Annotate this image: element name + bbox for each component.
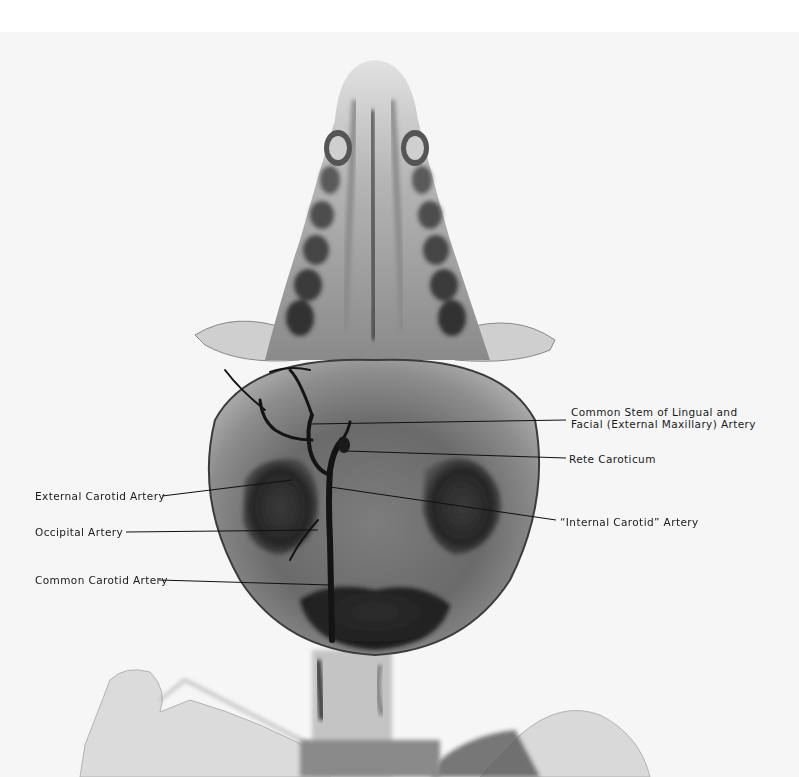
skull-radiograph	[0, 0, 799, 777]
label-common-carotid: Common Carotid Artery	[35, 574, 168, 586]
cervical-vertebrae	[300, 650, 440, 777]
label-rete-caroticum: Rete Caroticum	[569, 453, 656, 465]
label-occipital: Occipital Artery	[35, 526, 123, 538]
radiograph-figure: Common Stem of Lingual and Facial (Exter…	[0, 0, 799, 777]
label-common-stem-line2: Facial (External Maxillary) Artery	[571, 418, 799, 430]
label-common-stem: Common Stem of Lingual and Facial (Exter…	[571, 406, 799, 430]
label-internal-carotid: “Internal Carotid” Artery	[560, 516, 699, 528]
label-common-stem-line1: Common Stem of Lingual and	[571, 406, 799, 418]
label-external-carotid: External Carotid Artery	[35, 490, 165, 502]
